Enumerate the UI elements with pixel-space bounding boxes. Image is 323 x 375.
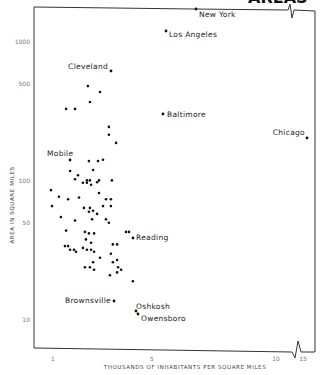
data-point: [82, 247, 85, 250]
x-tick-label: 5: [150, 355, 154, 362]
data-point: [98, 179, 101, 182]
data-point: [77, 174, 80, 177]
data-point: [85, 238, 88, 241]
data-point: [90, 183, 93, 186]
city-point-reading: [132, 237, 135, 240]
data-point: [86, 249, 89, 252]
chart-title: AREAS: [248, 0, 308, 7]
y-tick-label: 100: [19, 177, 31, 184]
data-point: [105, 198, 108, 201]
city-label-los-angeles: Los Angeles: [169, 30, 217, 39]
data-point: [83, 207, 86, 210]
data-point: [88, 160, 91, 163]
x-tick-label: 1: [51, 355, 55, 362]
data-point: [115, 142, 118, 145]
city-point-brownsville: [113, 300, 116, 303]
city-label-owensboro: Owensboro: [141, 314, 186, 323]
y-axis-ticks: 10005001005010: [15, 38, 30, 323]
data-point: [93, 268, 96, 271]
city-label-baltimore: Baltimore: [167, 110, 206, 119]
data-point: [89, 207, 92, 210]
data-point: [73, 249, 76, 252]
data-point: [86, 182, 89, 185]
data-point: [109, 274, 112, 277]
data-point: [96, 181, 99, 184]
data-point: [82, 182, 85, 185]
city-label-new-york: New York: [199, 10, 236, 19]
city-label-cleveland: Cleveland: [68, 62, 108, 71]
city-point-cleveland: [110, 70, 113, 73]
data-point: [91, 218, 94, 221]
data-point: [108, 126, 111, 129]
data-point: [110, 198, 113, 201]
data-point: [116, 271, 119, 274]
data-point: [90, 241, 93, 244]
y-axis-label: AREA IN SQUARE MILES: [9, 166, 15, 243]
city-point-chicago: [306, 137, 309, 140]
data-point: [97, 160, 100, 163]
data-points: [50, 85, 135, 283]
data-point: [111, 179, 114, 182]
city-point-los-angeles: [165, 30, 168, 33]
data-point: [89, 266, 92, 269]
x-axis-ticks: 151015: [51, 355, 307, 362]
data-point: [60, 216, 63, 219]
data-point: [112, 261, 115, 264]
scatter-chart: AREAS 10005001005010 151015 AREA IN SQUA…: [0, 0, 323, 375]
data-point: [51, 205, 54, 208]
data-point: [50, 189, 53, 192]
city-point-owensboro: [137, 313, 140, 316]
data-point: [116, 243, 119, 246]
data-point: [128, 231, 131, 234]
data-point: [93, 250, 96, 253]
x-tick-label: 10: [272, 355, 280, 362]
city-label-brownsville: Brownsville: [65, 296, 111, 305]
data-point: [120, 268, 123, 271]
data-point: [69, 170, 72, 173]
data-point: [108, 134, 111, 137]
city-label-chicago: Chicago: [273, 128, 305, 137]
city-label-oshkosh: Oshkosh: [136, 302, 170, 311]
data-point: [84, 231, 87, 234]
data-point: [116, 259, 119, 262]
x-tick-label: 15: [299, 355, 307, 362]
data-point: [74, 178, 77, 181]
data-point: [105, 218, 108, 221]
data-point: [64, 245, 67, 248]
data-point: [89, 101, 92, 104]
labeled-cities: New YorkLos AngelesClevelandBaltimoreChi…: [47, 8, 308, 323]
city-label-mobile: Mobile: [47, 149, 73, 158]
data-point: [92, 261, 95, 264]
data-point: [88, 211, 91, 214]
y-tick-label: 50: [22, 219, 30, 226]
data-point: [88, 232, 91, 235]
data-point: [75, 250, 78, 253]
y-tick-label: 500: [19, 80, 31, 87]
data-point: [67, 198, 70, 201]
data-point: [90, 249, 93, 252]
data-point: [99, 91, 102, 94]
city-label-reading: Reading: [136, 233, 169, 242]
y-tick-label: 1000: [15, 38, 30, 45]
city-point-baltimore: [162, 113, 165, 116]
data-point: [89, 179, 92, 182]
data-point: [117, 266, 120, 269]
data-point: [93, 232, 96, 235]
data-point: [102, 205, 105, 208]
data-point: [99, 257, 102, 260]
data-point: [78, 196, 81, 199]
data-point: [69, 249, 72, 252]
x-axis-label: THOUSANDS OF INHABITANTS PER SQUARE MILE…: [103, 364, 267, 370]
data-point: [65, 108, 68, 111]
data-point: [86, 179, 89, 182]
data-point: [98, 192, 101, 195]
data-point: [108, 222, 111, 225]
data-point: [92, 210, 95, 213]
data-point: [132, 280, 135, 283]
data-point: [58, 196, 61, 199]
data-point: [102, 159, 105, 162]
data-point: [87, 85, 90, 88]
data-point: [110, 205, 113, 208]
data-point: [112, 243, 115, 246]
city-point-mobile: [69, 159, 72, 162]
